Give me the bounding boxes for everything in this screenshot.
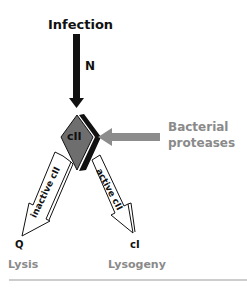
n-label: N [85,60,95,72]
protease-arrow [98,128,160,146]
q-gene-label: Q [15,240,24,250]
cii-node-label: cII [67,131,82,142]
lysis-label: Lysis [8,259,38,270]
ci-gene-label: cI [130,240,140,250]
infection-label: Infection [48,18,113,31]
protease-label-line2: proteases [168,137,235,149]
lysogeny-label: Lysogeny [108,259,166,270]
n-arrow [69,34,84,108]
protease-label-line1: Bacterial [168,121,228,133]
